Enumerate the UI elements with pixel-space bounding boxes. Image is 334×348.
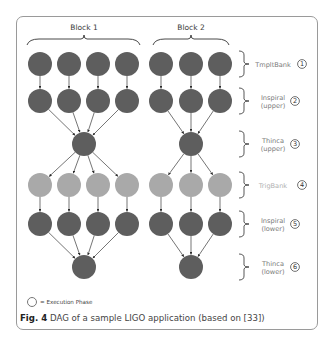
- execution-phase-node: [86, 173, 110, 197]
- phase-name: TrigBank: [258, 182, 288, 190]
- phase-name-sub: (lower): [261, 225, 284, 233]
- block-brace: [27, 35, 140, 45]
- edge-arrow: [93, 232, 119, 258]
- edge-arrow: [88, 112, 94, 132]
- phase-name: Inspiral: [261, 94, 285, 102]
- edge-arrow: [198, 234, 213, 257]
- phase-number: 4: [300, 181, 304, 189]
- execution-phase-node: [179, 212, 203, 236]
- execution-phase-node: [86, 52, 110, 76]
- block-label: Block 1: [70, 23, 98, 32]
- execution-phase-node: [57, 52, 81, 76]
- edge-arrow: [198, 111, 213, 134]
- execution-phase-node: [179, 255, 203, 279]
- phase-bracket: [239, 131, 249, 157]
- execution-phase-circle-icon: [27, 297, 37, 307]
- execution-phase-node: [149, 173, 173, 197]
- execution-phase-node: [208, 173, 232, 197]
- block-brace: [153, 35, 229, 45]
- legend-text: = Execution Phase: [40, 299, 92, 305]
- phase-number: 6: [293, 263, 297, 271]
- phase-number: 5: [293, 220, 297, 228]
- execution-phase-node: [149, 89, 173, 113]
- execution-phase-node: [115, 173, 139, 197]
- execution-phase-node: [72, 255, 96, 279]
- phase-name-sub: (upper): [261, 102, 285, 110]
- execution-phase-node: [115, 89, 139, 113]
- phase-name: Inspiral: [261, 217, 285, 225]
- execution-phase-node: [28, 212, 52, 236]
- execution-phase-node: [72, 132, 96, 156]
- edge-arrow: [49, 109, 75, 135]
- phase-name: TmpltBank: [254, 61, 291, 69]
- edge-arrow: [168, 234, 184, 257]
- phase-name-sub: (upper): [261, 145, 285, 153]
- edge-arrow: [88, 235, 94, 255]
- edge-arrow: [73, 112, 80, 132]
- execution-phase-node: [115, 212, 139, 236]
- caption-label: Fig. 4: [20, 313, 47, 323]
- phase-bracket: [239, 51, 249, 77]
- edge-arrow: [49, 152, 75, 176]
- phase-bracket: [239, 88, 249, 114]
- figure-caption: Fig. 4 DAG of a sample LIGO application …: [20, 313, 265, 323]
- phase-bracket: [239, 211, 249, 237]
- nodes: [28, 52, 232, 279]
- execution-phase-node: [57, 212, 81, 236]
- edge-arrow: [168, 111, 184, 134]
- block-label: Block 2: [177, 23, 205, 32]
- phase-bracket: [239, 254, 249, 280]
- execution-phase-node: [149, 52, 173, 76]
- execution-phase-node: [28, 173, 52, 197]
- caption-text: DAG of a sample LIGO application (based …: [47, 313, 264, 323]
- phase-number: 3: [293, 140, 297, 148]
- execution-phase-node: [179, 132, 203, 156]
- execution-phase-node: [86, 89, 110, 113]
- execution-phase-node: [208, 52, 232, 76]
- execution-phase-node: [179, 52, 203, 76]
- execution-phase-node: [208, 89, 232, 113]
- execution-phase-node: [86, 212, 110, 236]
- block-headers: Block 1Block 2: [27, 23, 229, 45]
- execution-phase-node: [149, 212, 173, 236]
- legend: = Execution Phase: [27, 296, 92, 308]
- execution-phase-node: [57, 173, 81, 197]
- edge-arrow: [73, 235, 80, 255]
- edge-arrow: [49, 232, 75, 258]
- phase-bracket: [239, 172, 249, 198]
- execution-phase-node: [57, 89, 81, 113]
- phase-name: Thinca: [261, 137, 284, 145]
- phase-name-sub: (lower): [261, 268, 284, 276]
- edge-arrow: [88, 155, 94, 173]
- edge-arrow: [73, 155, 80, 173]
- edge-arrow: [93, 152, 118, 176]
- execution-phase-node: [28, 52, 52, 76]
- edge-arrow: [198, 154, 213, 175]
- edge-arrow: [168, 154, 184, 175]
- execution-phase-node: [115, 52, 139, 76]
- execution-phase-node: [179, 173, 203, 197]
- execution-phase-node: [208, 212, 232, 236]
- phase-number: 1: [300, 60, 304, 68]
- phase-name: Thinca: [261, 260, 284, 268]
- execution-phase-node: [28, 89, 52, 113]
- edge-arrow: [93, 109, 119, 135]
- execution-phase-node: [179, 89, 203, 113]
- phase-labels: TmpltBank1Inspiral(upper)2Thinca(upper)3…: [239, 51, 306, 280]
- phase-number: 2: [293, 97, 297, 105]
